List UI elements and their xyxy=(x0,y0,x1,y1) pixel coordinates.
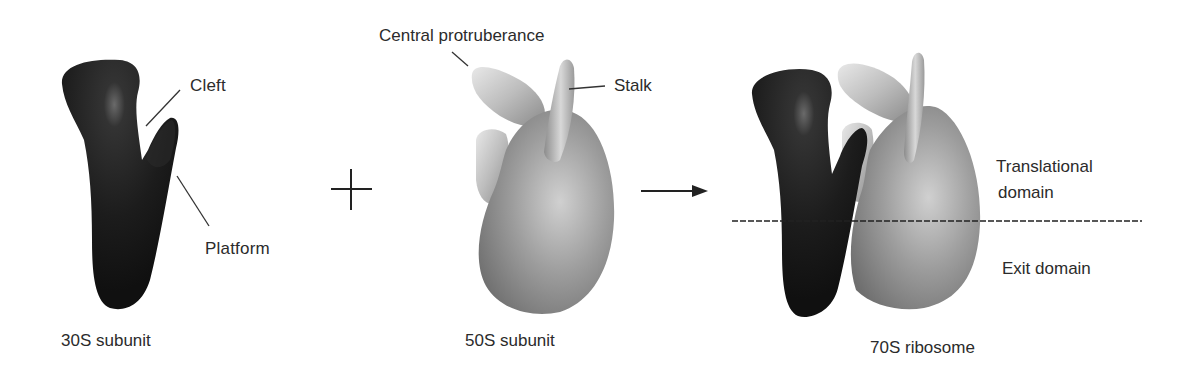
subunit-30s xyxy=(62,60,209,309)
platform-label: Platform xyxy=(205,239,270,258)
exit-domain-label: Exit domain xyxy=(1002,259,1091,278)
subunit-50s xyxy=(452,52,614,314)
caption-50s: 50S subunit xyxy=(465,331,555,350)
translational-domain-label-line2: domain xyxy=(998,183,1054,202)
caption-30s: 30S subunit xyxy=(61,331,151,350)
caption-70s: 70S ribosome xyxy=(870,338,975,357)
ribosome-diagram: Cleft Platform 30S subunit Central protr… xyxy=(0,0,1195,385)
central-protuberance-label: Central protruberance xyxy=(379,26,544,45)
stalk-label: Stalk xyxy=(614,76,652,95)
cleft-label: Cleft xyxy=(190,76,226,95)
translational-domain-label-line1: Translational xyxy=(996,157,1093,176)
ribosome-70s-30s-body xyxy=(752,69,867,317)
subunit-30s-body xyxy=(62,60,179,309)
ribosome-70s-central-protuberance xyxy=(838,63,915,121)
central-protuberance-leader-line xyxy=(452,52,468,66)
plus-icon xyxy=(331,169,372,210)
arrow-right-icon xyxy=(641,185,708,197)
platform-leader-line xyxy=(177,176,209,226)
